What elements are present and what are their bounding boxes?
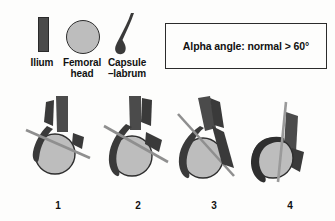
curved-spoon-icon [110,12,140,56]
severity-panel-normal [16,96,100,188]
severity-panel-mild [96,96,180,188]
figure-root: Ilium Femoral head Capsule –labrum Alpha… [0,0,335,221]
panel-number-4: 4 [248,200,332,212]
panel-number-2: 2 [96,200,180,212]
severity-panel-moderate [172,96,256,188]
panel-caption-3: 3 Moderate [172,188,256,221]
legend-label-femoral-head: Femoral head [59,57,105,79]
panel-number-3: 3 [172,200,256,212]
legend-label-capsule-labrum: Capsule –labrum [104,57,150,79]
filled-circle-icon [66,20,100,54]
panel-caption-4: 4 Severe [248,188,332,221]
alpha-angle-callout-text: Alpha angle: normal > 60° [165,40,327,52]
panel-caption-2: 2 Mild [96,188,180,221]
panel-caption-1: 1 Normal [16,188,100,221]
severity-panel-severe [248,96,332,188]
rectangle-bar-icon [38,17,49,52]
panel-number-1: 1 [16,200,100,212]
